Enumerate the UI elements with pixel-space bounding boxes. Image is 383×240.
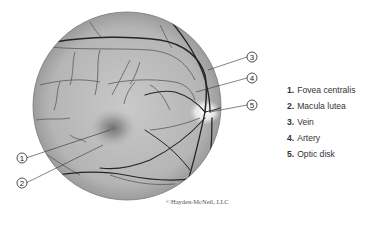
svg-text:5: 5 — [250, 101, 255, 110]
legend-label: Optic disk — [297, 149, 335, 159]
legend-number: 4. — [287, 133, 294, 143]
callout-1: 1 — [17, 153, 27, 163]
legend-number: 3. — [287, 117, 294, 127]
legend-item-artery: 4.Artery — [287, 130, 355, 146]
callout-2: 2 — [17, 178, 27, 188]
legend: 1.Fovea centralis 2.Macula lutea 3.Vein … — [287, 82, 355, 162]
legend-number: 1. — [287, 85, 294, 95]
legend-number: 2. — [287, 101, 294, 111]
legend-label: Artery — [297, 133, 320, 143]
legend-item-vein: 3.Vein — [287, 114, 355, 130]
svg-text:3: 3 — [250, 53, 255, 62]
legend-item-optic-disk: 5.Optic disk — [287, 146, 355, 162]
legend-item-fovea: 1.Fovea centralis — [287, 82, 355, 98]
svg-text:2: 2 — [20, 179, 25, 188]
legend-label: Vein — [297, 117, 314, 127]
macula-lutea — [89, 108, 137, 148]
legend-label: Macula lutea — [297, 101, 346, 111]
svg-text:1: 1 — [20, 154, 25, 163]
copyright-credit: ©Hayden-McNeil, LLC — [166, 198, 229, 205]
svg-text:4: 4 — [250, 74, 255, 83]
legend-item-macula: 2.Macula lutea — [287, 98, 355, 114]
legend-label: Fovea centralis — [297, 85, 355, 95]
callout-3: 3 — [247, 52, 257, 62]
callout-5: 5 — [247, 100, 257, 110]
legend-number: 5. — [287, 149, 294, 159]
callout-4: 4 — [247, 73, 257, 83]
